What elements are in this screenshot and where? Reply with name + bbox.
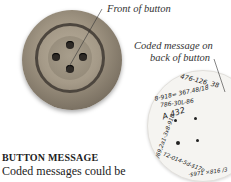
section-body: Coded messages could be [2,164,126,179]
section-heading: BUTTON MESSAGE [2,152,98,163]
back-of-button-label-line2: back of button [150,52,210,64]
front-of-button-label: Front of button [107,3,171,15]
back-of-button-label-line1: Coded message on [134,40,213,52]
